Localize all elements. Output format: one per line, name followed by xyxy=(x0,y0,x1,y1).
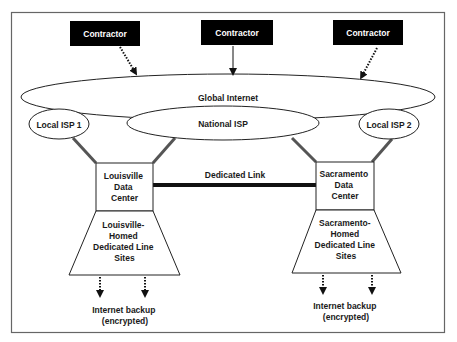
national-isp-label: National ISP xyxy=(198,119,248,129)
dedicated-link xyxy=(153,183,316,187)
contractor-3-arrow xyxy=(362,48,377,76)
local-isp-1-label: Local ISP 1 xyxy=(36,120,81,130)
sacramento-backup-label: Internet backup (encrypted) xyxy=(313,301,379,322)
contractor-3-label: Contractor xyxy=(346,28,390,38)
isp-connectors xyxy=(73,138,392,163)
local-isp-2-label: Local ISP 2 xyxy=(366,120,411,130)
contractor-1-label: Contractor xyxy=(83,29,127,39)
contractor-3: Contractor xyxy=(333,20,403,45)
network-diagram: Global Internet National ISP Local ISP 1… xyxy=(0,0,457,342)
contractor-1-arrow xyxy=(120,47,135,72)
global-internet-label: Global Internet xyxy=(198,93,258,103)
contractor-2-label: Contractor xyxy=(215,28,259,38)
contractor-1: Contractor xyxy=(70,21,140,46)
dedicated-link-label: Dedicated Link xyxy=(205,170,266,180)
louisville-backup-label: Internet backup (encrypted) xyxy=(92,305,158,326)
contractor-2: Contractor xyxy=(201,20,273,45)
